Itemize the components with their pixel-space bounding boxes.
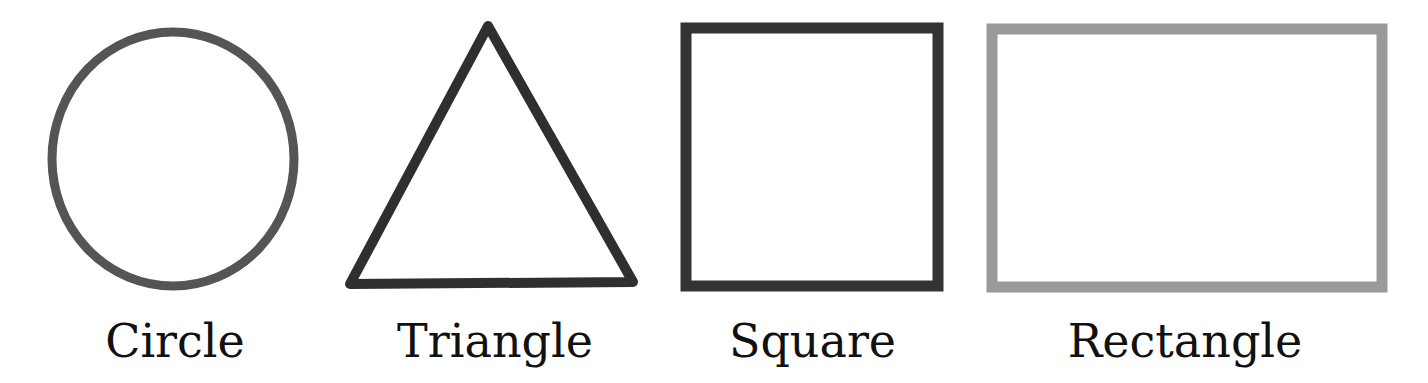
square-shape [678,20,946,295]
circle-shape [40,22,310,297]
square-label: Square [700,318,925,364]
circle-label: Circle [60,318,290,364]
rectangle-shape [982,20,1392,295]
rectangle-label: Rectangle [1040,318,1330,364]
triangle-shape [340,18,645,298]
triangle-label: Triangle [370,318,620,364]
